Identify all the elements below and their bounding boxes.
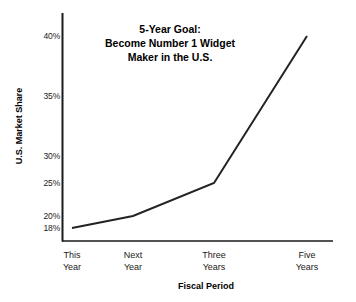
x-tick-label-next-year-line-2: Year [124,262,143,274]
y-axis-title: U.S. Market Share [14,66,24,186]
y-tick-label-40: 40% [44,31,60,41]
y-tick-label-30: 30% [44,151,60,161]
x-tick-label-next-year: Next Year [124,250,143,273]
x-tick-label-five-years: Five Years [296,250,319,273]
x-tick-label-this-year-line-2: Year [63,262,81,274]
chart-title-line-2: Become Number 1 Widget [86,36,254,50]
chart-title: 5-Year Goal: Become Number 1 Widget Make… [86,22,254,64]
y-tick-label-25: 25% [44,178,60,188]
y-tick-label-35: 35% [44,91,60,101]
x-axis-title: Fiscal Period [0,281,356,291]
chart-container: 5-Year Goal: Become Number 1 Widget Make… [0,0,356,302]
x-tick-label-next-year-line-1: Next [124,250,143,262]
chart-title-line-3: Maker in the U.S. [86,50,254,64]
chart-title-line-1: 5-Year Goal: [86,22,254,36]
x-tick-label-this-year-line-1: This [63,250,81,262]
x-tick-label-this-year: This Year [63,250,81,273]
x-tick-label-three-years-line-1: Three [202,250,226,262]
y-tick-label-18: 18% [44,223,60,233]
x-tick-label-three-years-line-2: Years [202,262,226,274]
y-tick-label-20: 20% [44,211,60,221]
x-tick-label-five-years-line-1: Five [296,250,319,262]
x-tick-label-three-years: Three Years [202,250,226,273]
x-tick-label-five-years-line-2: Years [296,262,319,274]
